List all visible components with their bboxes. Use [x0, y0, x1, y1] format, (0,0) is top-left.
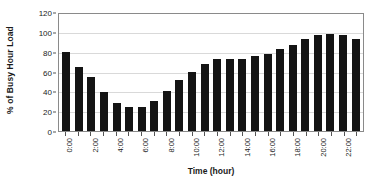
x-axis-label-slot [274, 137, 287, 165]
y-axis-tick-label: 100 [39, 28, 52, 37]
x-axis-tick-mark [141, 132, 142, 136]
bar-series [59, 14, 363, 131]
x-axis-tick-slot [300, 132, 313, 136]
bar-slot [148, 14, 161, 131]
x-axis-label-slot [198, 137, 211, 165]
bar [289, 45, 297, 131]
x-axis-tick-slot [287, 132, 300, 136]
bar [326, 34, 334, 132]
x-axis-tick-marks [58, 132, 364, 136]
bar-slot [324, 14, 337, 131]
x-axis-tick-mark [179, 132, 180, 136]
y-axis-title: % of Busy Hour Load [0, 0, 20, 140]
x-axis-tick-slot [274, 132, 287, 136]
bar-slot [211, 14, 224, 131]
bar-slot [312, 14, 325, 131]
x-axis-tick-mark [78, 132, 79, 136]
y-axis-tick-label: 20 [43, 108, 52, 117]
x-axis-tick-mark [255, 132, 256, 136]
y-axis-tick-labels: 020406080100120 [20, 13, 56, 132]
y-axis-tick-label: 0 [48, 128, 52, 137]
x-axis-label-slot: 0:00 [59, 137, 72, 165]
x-axis-tick-slot [198, 132, 211, 136]
x-axis-label-slot: 12:00 [211, 137, 224, 165]
x-axis-tick-slot [211, 132, 224, 136]
bar-slot [236, 14, 249, 131]
bar-slot [337, 14, 350, 131]
y-axis-tick-label: 80 [43, 48, 52, 57]
x-axis-label-slot [224, 137, 237, 165]
x-axis-tick-mark [318, 132, 319, 136]
bar [301, 39, 309, 131]
y-axis-tick-label: 40 [43, 88, 52, 97]
x-axis-tick-mark [116, 132, 117, 136]
bar [75, 67, 83, 131]
y-axis-tick-mark [53, 112, 56, 113]
x-axis-tick-slot [97, 132, 110, 136]
y-axis-tick-mark [53, 52, 56, 53]
x-axis-tick-mark [65, 132, 66, 136]
x-axis-label-slot [173, 137, 186, 165]
bar [188, 72, 196, 131]
bar-slot [161, 14, 174, 131]
x-axis-label-slot: 10:00 [186, 137, 199, 165]
x-axis-tick-slot [186, 132, 199, 136]
x-axis-label-slot: 14:00 [236, 137, 249, 165]
bar-slot [123, 14, 136, 131]
bar [264, 54, 272, 131]
bar [87, 77, 95, 131]
x-axis-tick-slot [325, 132, 338, 136]
x-axis-tick-mark [306, 132, 307, 136]
y-axis-tick-label: 120 [39, 9, 52, 18]
x-axis-tick-slot [59, 132, 72, 136]
x-axis-label-slot: 4:00 [110, 137, 123, 165]
bar-slot [110, 14, 123, 131]
x-axis-label-slot [300, 137, 313, 165]
bar-slot [73, 14, 86, 131]
x-axis-label-slot [97, 137, 110, 165]
bar [113, 103, 121, 131]
bar-slot [249, 14, 262, 131]
bar [226, 59, 234, 131]
bar-slot [85, 14, 98, 131]
x-axis-label-slot: 6:00 [135, 137, 148, 165]
y-axis-tick-mark [53, 32, 56, 33]
bar [175, 80, 183, 131]
bar [163, 91, 171, 131]
x-axis-label-slot [325, 137, 338, 165]
bar [125, 107, 133, 131]
x-axis-tick-labels: 0:002:004:006:008:0010:0012:0014:0016:00… [58, 137, 364, 165]
x-axis-tick-mark [204, 132, 205, 136]
bar-slot [186, 14, 199, 131]
y-axis-tick-mark [53, 132, 56, 133]
x-axis-tick-slot [160, 132, 173, 136]
x-axis-tick-mark [192, 132, 193, 136]
x-axis-label-slot [350, 137, 363, 165]
x-axis-tick-mark [128, 132, 129, 136]
x-axis-tick-mark [90, 132, 91, 136]
x-axis-tick-mark [293, 132, 294, 136]
x-axis-tick-mark [154, 132, 155, 136]
x-axis-tick-slot [224, 132, 237, 136]
bar-chart-figure: % of Busy Hour Load 020406080100120 0:00… [0, 0, 382, 181]
x-axis-label-slot [148, 137, 161, 165]
bar [352, 39, 360, 131]
y-axis-title-text: % of Busy Hour Load [5, 26, 15, 114]
bar-slot [198, 14, 211, 131]
bar [213, 59, 221, 131]
x-axis-tick-mark [356, 132, 357, 136]
x-axis-label-slot: 20:00 [312, 137, 325, 165]
bar-slot [135, 14, 148, 131]
bar [251, 56, 259, 131]
x-axis-title: Time (hour) [58, 166, 364, 176]
bar-slot [349, 14, 362, 131]
x-axis-tick-mark [331, 132, 332, 136]
bar-slot [60, 14, 73, 131]
x-axis-label-slot [72, 137, 85, 165]
x-axis-tick-slot [262, 132, 275, 136]
x-axis-label-slot: 8:00 [160, 137, 173, 165]
x-axis-label-slot: 18:00 [287, 137, 300, 165]
bar [62, 52, 70, 131]
bar [339, 35, 347, 131]
bar-slot [261, 14, 274, 131]
